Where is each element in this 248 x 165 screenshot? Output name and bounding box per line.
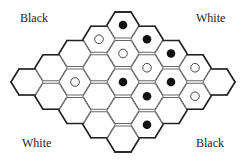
black-stone [143, 120, 152, 129]
white-stone [191, 92, 200, 101]
white-stone [95, 35, 104, 44]
white-stone [143, 63, 152, 72]
white-stone [71, 78, 80, 87]
black-stone [167, 49, 176, 58]
label-black-top-left: Black [20, 11, 48, 26]
white-stone [191, 63, 200, 72]
label-white-bottom-left: White [22, 136, 51, 151]
label-white-top-right: White [196, 11, 225, 26]
white-stone [119, 49, 128, 58]
black-stone [119, 78, 128, 87]
black-stone [119, 21, 128, 30]
black-stone [143, 35, 152, 44]
black-stone [143, 92, 152, 101]
black-stone [167, 78, 176, 87]
label-black-bottom-right: Black [196, 136, 224, 151]
